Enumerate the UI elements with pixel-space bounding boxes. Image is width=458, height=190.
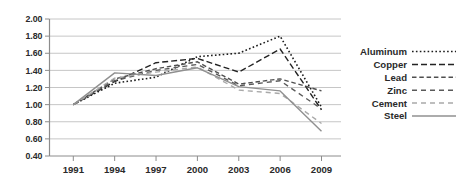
x-tick-label: 1991	[63, 164, 85, 175]
legend-label-zinc: Zinc	[387, 85, 407, 96]
legend-label-lead: Lead	[385, 72, 408, 83]
x-tick-label: 2000	[187, 164, 208, 175]
x-tick-label: 1997	[145, 164, 166, 175]
y-tick-label: 1.00	[25, 100, 42, 110]
series-line-zinc	[73, 64, 321, 109]
y-tick-label: 1.40	[25, 66, 42, 76]
legend-label-copper: Copper	[373, 59, 407, 70]
y-tick-label: 0.60	[25, 134, 42, 144]
legend-label-cement: Cement	[372, 98, 408, 109]
y-tick-label: 1.80	[25, 31, 42, 41]
x-tick-label: 2003	[228, 164, 249, 175]
y-tick-label: 0.40	[25, 151, 42, 161]
legend-label-aluminum: Aluminum	[360, 46, 407, 57]
series-line-copper	[73, 49, 321, 110]
y-tick-label: 1.60	[25, 48, 42, 58]
x-tick-label: 2009	[311, 164, 332, 175]
line-chart: 2.001.801.601.401.201.000.800.600.401991…	[0, 0, 458, 190]
y-tick-label: 0.80	[25, 117, 42, 127]
legend-label-steel: Steel	[384, 110, 407, 121]
y-tick-label: 1.20	[25, 83, 42, 93]
x-tick-label: 2006	[269, 164, 290, 175]
chart-canvas: 2.001.801.601.401.201.000.800.600.401991…	[0, 0, 458, 190]
y-tick-label: 2.00	[25, 14, 42, 24]
x-tick-label: 1994	[104, 164, 126, 175]
